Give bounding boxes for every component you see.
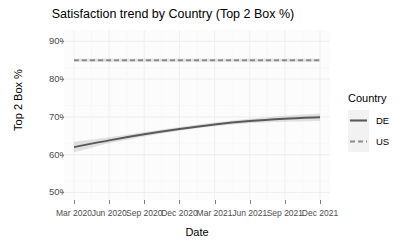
x-tick-mark: [285, 200, 286, 204]
legend-label-us: US: [376, 136, 389, 147]
plot-area: [64, 30, 330, 200]
y-axis-title: Top 2 Box %: [12, 60, 24, 140]
x-tick-mark: [109, 200, 110, 204]
legend-key-us-icon: [348, 131, 369, 152]
x-tick-mark: [215, 200, 216, 204]
plot-panel: [64, 30, 330, 200]
gridlines: [64, 30, 330, 200]
x-tick-mark: [74, 200, 75, 204]
legend-key-de-icon: [348, 110, 369, 131]
legend: Country DE US: [348, 92, 414, 152]
legend-item-us[interactable]: US: [348, 131, 414, 152]
legend-title: Country: [348, 92, 414, 104]
chart-container: Satisfaction trend by Country (Top 2 Box…: [0, 0, 414, 248]
legend-label-de: DE: [376, 115, 389, 126]
x-tick-label: Dec 2021: [292, 208, 348, 218]
legend-item-de[interactable]: DE: [348, 110, 414, 131]
x-tick-mark: [320, 200, 321, 204]
x-tick-mark: [144, 200, 145, 204]
x-tick-mark: [179, 200, 180, 204]
chart-title: Satisfaction trend by Country (Top 2 Box…: [0, 7, 346, 22]
x-axis-title: Date: [64, 226, 330, 238]
x-tick-mark: [250, 200, 251, 204]
